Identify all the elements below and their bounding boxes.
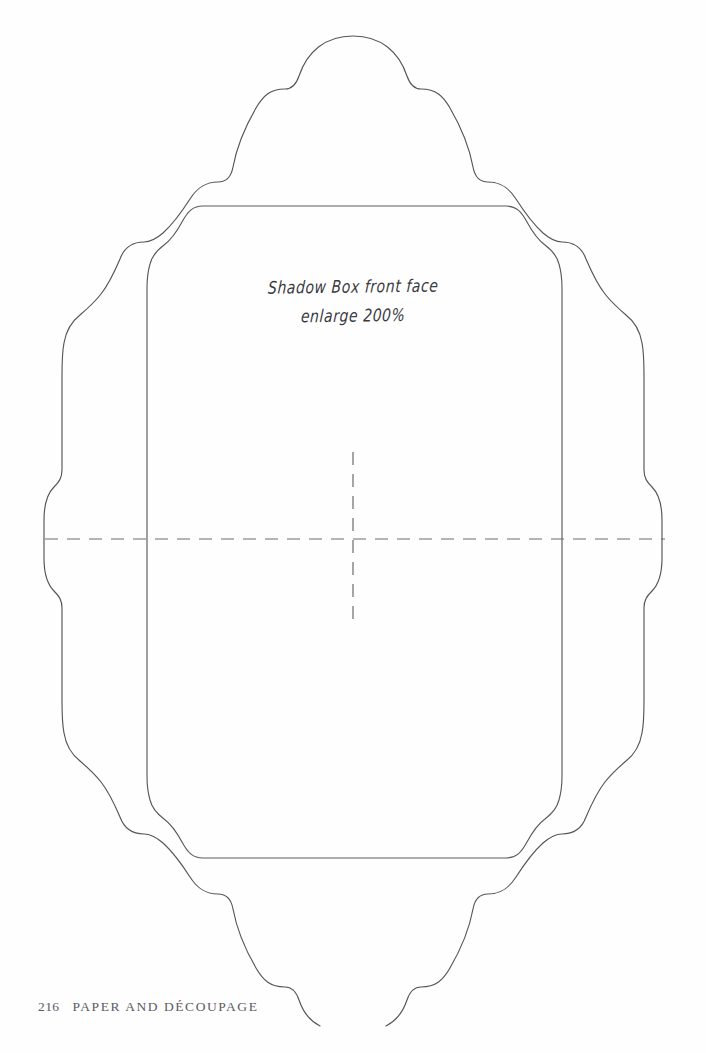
template-page: Shadow Box front face enlarge 200% 216 P… [0, 0, 706, 1053]
page-footer: 216 PAPER AND DÉCOUPAGE [38, 999, 258, 1015]
annotation-line-2-text: enlarge 200% [300, 305, 406, 327]
annotation-line-1-text: Shadow Box front face [267, 276, 439, 298]
cutting-template-drawing [0, 0, 706, 1053]
inner-fold-outline [147, 206, 562, 858]
footer-page-number: 216 [38, 999, 59, 1015]
footer-section-title: PAPER AND DÉCOUPAGE [72, 999, 258, 1015]
